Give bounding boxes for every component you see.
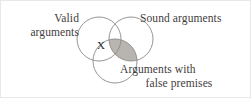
label-sound-arguments: Sound arguments	[140, 12, 221, 26]
label-valid-arguments: Valid arguments	[7, 12, 79, 39]
label-valid-arguments-line2: arguments	[7, 26, 79, 40]
label-false-premises-arguments: Arguments with false premises	[120, 63, 248, 90]
label-false-premises-line2: false premises	[120, 77, 248, 91]
x-mark-label: X	[97, 40, 105, 51]
label-sound-arguments-line1: Sound arguments	[140, 12, 221, 24]
label-false-premises-line1: Arguments with	[120, 63, 248, 77]
label-valid-arguments-line1: Valid	[54, 12, 79, 24]
venn-diagram-figure: Valid arguments Sound arguments Argument…	[0, 0, 251, 98]
